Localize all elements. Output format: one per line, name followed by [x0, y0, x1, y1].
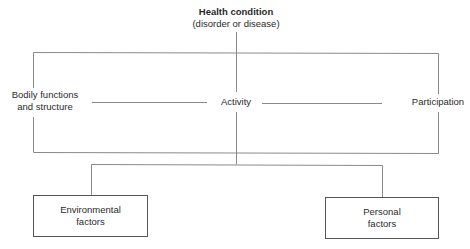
- health-condition-subtitle: (disorder or disease): [168, 18, 304, 30]
- health-condition-title: Health condition: [168, 6, 304, 18]
- personal-factors-line2: factors: [363, 218, 401, 230]
- personal-factors-box: Personal factors: [325, 197, 439, 239]
- activity-label: Activity: [214, 96, 258, 108]
- personal-factors-line1: Personal: [363, 206, 401, 218]
- health-condition-label: Health condition (disorder or disease): [168, 6, 304, 30]
- bodily-functions-line2: and structure: [2, 101, 88, 113]
- environmental-factors-box: Environmental factors: [33, 195, 148, 237]
- factors-branch: [92, 165, 383, 198]
- icf-diagram: Health condition (disorder or disease) B…: [0, 0, 470, 249]
- bodily-functions-label: Bodily functions and structure: [2, 89, 88, 114]
- participation-label: Participation: [406, 96, 470, 108]
- bodily-functions-line1: Bodily functions: [2, 89, 88, 101]
- environmental-factors-line2: factors: [60, 216, 121, 228]
- environmental-factors-line1: Environmental: [60, 204, 121, 216]
